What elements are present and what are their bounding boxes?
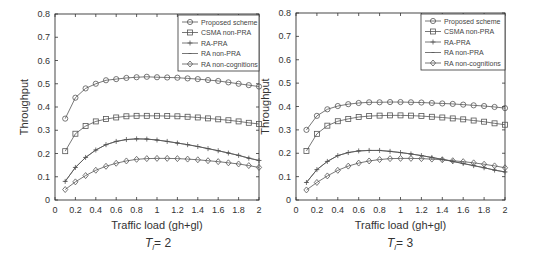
legend-label: Proposed scheme [201, 19, 258, 27]
y-tick-label: 0.3 [278, 125, 291, 135]
series-line [306, 158, 505, 190]
series-line [65, 77, 259, 119]
legend-label: RA non-PRA [201, 50, 241, 57]
y-tick-label: 0.1 [37, 172, 50, 182]
series-line [306, 102, 505, 130]
y-axis-label: Throughput [259, 78, 271, 134]
x-tick-label: 0.4 [90, 205, 103, 215]
series-csma-non-pra [304, 113, 508, 154]
x-axis-label: Traffic load (gh+gl) [111, 219, 202, 231]
y-tick-label: 0.1 [278, 172, 291, 182]
y-tick-label: 0.2 [37, 149, 50, 159]
x-tick-label: 1 [398, 205, 403, 215]
x-tick-label: 1 [154, 205, 159, 215]
legend-label: Proposed scheme [444, 18, 501, 26]
x-tick-label: 0.6 [110, 205, 123, 215]
y-tick-label: 0.6 [37, 56, 50, 66]
plot-2: 00.20.40.60.811.21.41.61.8200.10.20.30.4… [259, 8, 508, 252]
x-tick-label: 1.4 [436, 205, 449, 215]
chart-figure: 00.20.40.60.811.21.41.61.8200.10.20.30.4… [0, 0, 533, 263]
x-tick-label: 0.2 [311, 205, 324, 215]
x-tick-label: 0.8 [373, 205, 386, 215]
y-tick-label: 0.2 [278, 148, 291, 158]
x-tick-label: 0 [293, 205, 298, 215]
y-tick-label: 0.7 [37, 32, 50, 42]
x-tick-label: 2 [256, 205, 261, 215]
series-proposed-scheme [63, 74, 262, 121]
plot-1: 00.20.40.60.811.21.41.61.8200.10.20.30.4… [18, 9, 262, 252]
legend-label: RA-PRA [201, 40, 228, 47]
y-axis-label: Throughput [18, 79, 30, 135]
series-ra-non-cognitions [63, 155, 262, 192]
legend: Proposed schemeCSMA non-PRARA-PRARA non-… [421, 14, 505, 70]
series-line [65, 139, 259, 182]
x-tick-label: 1.8 [478, 205, 491, 215]
x-tick-label: 0.8 [130, 205, 143, 215]
series-ra-non-pra [64, 139, 261, 182]
legend-label: RA non-cognitions [444, 60, 501, 68]
x-tick-label: 1.4 [192, 205, 205, 215]
series-line [65, 158, 259, 189]
x-tick-label: 0 [52, 205, 57, 215]
x-tick-label: 1.2 [415, 205, 428, 215]
series-line [306, 115, 505, 151]
series-ra-non-pra [305, 150, 507, 182]
y-tick-label: 0.8 [278, 8, 291, 18]
x-tick-label: 0.2 [69, 205, 82, 215]
y-tick-label: 0.6 [278, 55, 291, 65]
x-tick-label: 1.8 [232, 205, 245, 215]
y-tick-label: 0.7 [278, 31, 291, 41]
series-ra-non-cognitions [304, 155, 508, 193]
x-tick-label: 2 [502, 205, 507, 215]
legend-label: RA non-cognitions [201, 61, 258, 69]
series-line [65, 139, 259, 182]
legend-label: CSMA non-PRA [201, 29, 252, 36]
x-tick-label: 0.4 [332, 205, 345, 215]
legend-label: RA-PRA [444, 39, 471, 46]
legend-label: CSMA non-PRA [444, 28, 495, 35]
y-tick-label: 0.5 [37, 79, 50, 89]
y-tick-label: 0.5 [278, 78, 291, 88]
y-tick-label: 0 [286, 195, 291, 205]
series-csma-non-pra [63, 113, 262, 153]
legend: Proposed schemeCSMA non-PRARA-PRARA non-… [178, 15, 259, 71]
series-proposed-scheme [304, 99, 508, 132]
plot-caption: Tl= 2 [145, 236, 171, 252]
y-tick-label: 0.4 [278, 102, 291, 112]
series-line [65, 116, 259, 151]
y-tick-label: 0 [45, 195, 50, 205]
plot-caption: Tl= 3 [387, 236, 413, 252]
x-tick-label: 1.6 [212, 205, 225, 215]
x-tick-label: 0.6 [352, 205, 365, 215]
legend-label: RA non-PRA [444, 49, 484, 56]
x-axis-label: Traffic load (gh+gl) [355, 219, 446, 231]
y-tick-label: 0.3 [37, 125, 50, 135]
y-tick-label: 0.8 [37, 9, 50, 19]
x-tick-label: 1.6 [457, 205, 470, 215]
y-tick-label: 0.4 [37, 102, 50, 112]
series-ra-pra [63, 136, 262, 184]
x-tick-label: 1.2 [171, 205, 184, 215]
